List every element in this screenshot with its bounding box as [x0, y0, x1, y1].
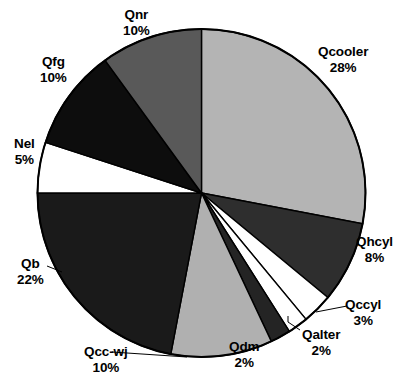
- pie-label-nel-name: Nel: [14, 136, 35, 152]
- pie-label-qccyl-pct: 3%: [345, 313, 381, 329]
- pie-label-qb: Qb 22%: [17, 256, 44, 288]
- pie-label-qfg: Qfg 10%: [40, 54, 67, 86]
- pie-label-qnr-pct: 10%: [123, 23, 150, 39]
- pie-label-qcooler-name: Qcooler: [318, 44, 368, 60]
- pie-label-qcooler: Qcooler 28%: [318, 44, 368, 76]
- pie-label-qdm-pct: 2%: [229, 355, 259, 371]
- pie-label-qcc-wj: Qcc-wj 10%: [84, 344, 128, 376]
- pie-label-qnr-name: Qnr: [123, 7, 150, 23]
- pie-label-qcc-wj-pct: 10%: [84, 360, 128, 376]
- pie-label-qdm-name: Qdm: [229, 339, 259, 355]
- pie-label-qb-pct: 22%: [17, 272, 44, 288]
- pie-label-qfg-name: Qfg: [40, 54, 67, 70]
- pie-label-qhcyl-pct: 8%: [356, 250, 393, 266]
- pie-chart: Qcooler 28% Qhcyl 8% Qccyl 3% Qalter 2% …: [0, 0, 411, 389]
- pie-label-qcc-wj-name: Qcc-wj: [84, 344, 128, 360]
- pie-label-qfg-pct: 10%: [40, 70, 67, 86]
- pie-label-qb-name: Qb: [17, 256, 44, 272]
- pie-label-qhcyl: Qhcyl 8%: [356, 234, 393, 266]
- pie-label-qcooler-pct: 28%: [318, 60, 368, 76]
- pie-label-qdm: Qdm 2%: [229, 339, 259, 371]
- pie-label-nel-pct: 5%: [14, 152, 35, 168]
- pie-label-qalter-name: Qalter: [302, 327, 340, 343]
- pie-label-nel: Nel 5%: [14, 136, 35, 168]
- pie-label-qalter: Qalter 2%: [302, 327, 340, 359]
- pie-label-qccyl: Qccyl 3%: [345, 297, 381, 329]
- pie-label-qhcyl-name: Qhcyl: [356, 234, 393, 250]
- pie-label-qalter-pct: 2%: [302, 343, 340, 359]
- pie-label-qccyl-name: Qccyl: [345, 297, 381, 313]
- pie-label-qnr: Qnr 10%: [123, 7, 150, 39]
- pie-slice-group: [38, 29, 366, 357]
